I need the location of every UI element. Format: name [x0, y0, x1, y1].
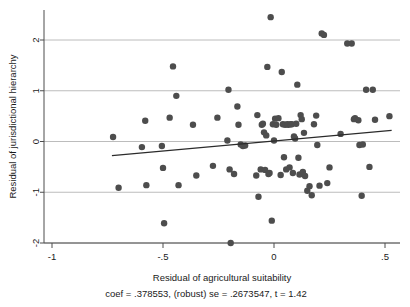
- data-point: [214, 114, 220, 120]
- data-point: [234, 103, 240, 109]
- data-point: [142, 117, 148, 123]
- data-point: [159, 143, 165, 149]
- regression-fit-line: [112, 130, 392, 155]
- data-point: [160, 165, 166, 171]
- data-point: [286, 164, 292, 170]
- x-tick-labels: -1-.50.5: [48, 251, 389, 262]
- scatter-points: [110, 14, 393, 246]
- scatter-plot-figure: -2-1012 -1-.50.5 Residual of jurisdictio…: [0, 0, 410, 307]
- data-point: [269, 217, 275, 223]
- data-point: [337, 131, 343, 137]
- data-point: [260, 121, 266, 127]
- data-point: [253, 172, 259, 178]
- data-point: [290, 170, 296, 176]
- data-point: [363, 87, 369, 93]
- data-point: [263, 132, 269, 138]
- data-point: [210, 163, 216, 169]
- y-tick-label--1: -1: [30, 188, 41, 196]
- data-point: [175, 182, 181, 188]
- data-point: [254, 112, 260, 118]
- data-point: [255, 194, 261, 200]
- data-point: [110, 134, 116, 140]
- y-tick-label-2: 2: [30, 37, 41, 42]
- data-point: [224, 137, 230, 143]
- x-tick-label-.5: .5: [381, 251, 389, 262]
- data-point: [161, 220, 167, 226]
- data-point: [370, 87, 376, 93]
- y-tick-label-1: 1: [30, 88, 41, 93]
- x-axis-title: Residual of agricultural suitability: [153, 272, 292, 283]
- data-point: [275, 115, 281, 121]
- data-point: [190, 122, 196, 128]
- data-point: [306, 183, 312, 189]
- data-point: [358, 193, 364, 199]
- data-point: [386, 113, 392, 119]
- data-point: [295, 155, 301, 161]
- y-axis-ticks: [40, 40, 44, 243]
- data-point: [264, 64, 270, 70]
- x-tick-label-0: 0: [271, 251, 276, 262]
- data-point: [321, 32, 327, 38]
- data-point: [309, 192, 315, 198]
- data-point: [366, 164, 372, 170]
- x-tick-label--1: -1: [48, 251, 56, 262]
- data-point: [166, 114, 172, 120]
- data-point: [326, 164, 332, 170]
- data-point: [299, 116, 305, 122]
- data-point: [301, 130, 307, 136]
- data-point: [228, 240, 234, 246]
- data-point: [173, 93, 179, 99]
- data-point: [225, 87, 231, 93]
- data-point: [360, 141, 366, 147]
- chart-caption: coef = .378553, (robust) se = .2673547, …: [105, 288, 307, 299]
- x-tick-label--.5: -.5: [157, 251, 168, 262]
- data-point: [226, 166, 232, 172]
- data-point: [314, 142, 320, 148]
- data-point: [273, 122, 279, 128]
- y-tick-label--2: -2: [30, 239, 41, 247]
- data-point: [231, 171, 237, 177]
- data-point: [266, 170, 272, 176]
- y-tick-labels: -2-1012: [30, 37, 41, 247]
- data-point: [279, 69, 285, 75]
- y-tick-label-0: 0: [30, 139, 41, 144]
- data-point: [302, 173, 308, 179]
- data-point: [115, 184, 121, 190]
- data-point: [170, 63, 176, 69]
- data-point: [349, 40, 355, 46]
- data-point: [267, 14, 273, 20]
- data-point: [235, 122, 241, 128]
- y-axis-title: Residual of jurisdictional hierarchy: [7, 54, 18, 198]
- data-point: [143, 182, 149, 188]
- data-point: [316, 182, 322, 188]
- data-point: [293, 121, 299, 127]
- x-axis-ticks: [52, 243, 385, 248]
- data-point: [372, 116, 378, 122]
- data-point: [355, 117, 361, 123]
- plot-canvas: -2-1012 -1-.50.5 Residual of jurisdictio…: [0, 0, 410, 307]
- data-point: [277, 172, 283, 178]
- data-point: [311, 121, 317, 127]
- data-point: [313, 112, 319, 118]
- data-point: [294, 81, 300, 87]
- data-point: [324, 180, 330, 186]
- gridlines: [44, 40, 400, 243]
- data-point: [281, 154, 287, 160]
- data-point: [139, 144, 145, 150]
- data-point: [193, 172, 199, 178]
